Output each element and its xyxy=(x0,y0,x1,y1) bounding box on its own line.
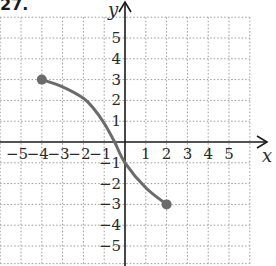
y-tick-label: −2 xyxy=(99,175,121,193)
y-tick-label: −1 xyxy=(99,154,121,172)
x-tick-label: −3 xyxy=(48,145,70,163)
y-tick-label: 3 xyxy=(111,71,121,89)
function-graph: 27. x y −5−4−3−2−11234554321−1−2−3−4−5 xyxy=(0,0,276,266)
x-tick-label: −5 xyxy=(6,145,28,163)
x-tick-label: 1 xyxy=(141,145,151,163)
axes: x y xyxy=(0,0,272,266)
y-tick-label: −5 xyxy=(99,237,121,255)
y-axis-label: y xyxy=(107,0,119,20)
y-tick-label: 4 xyxy=(111,50,121,68)
x-tick-label: 4 xyxy=(203,145,213,163)
problem-number: 27. xyxy=(0,0,28,14)
x-tick-label: 5 xyxy=(224,145,234,163)
x-tick-label: −2 xyxy=(68,145,90,163)
y-tick-label: −4 xyxy=(99,216,121,234)
x-tick-label: 2 xyxy=(162,145,172,163)
y-tick-label: 1 xyxy=(111,112,121,130)
y-tick-label: 5 xyxy=(111,29,121,47)
x-tick-label: 3 xyxy=(183,145,193,163)
x-axis-label: x xyxy=(262,145,272,166)
closed-endpoint-dot xyxy=(37,75,47,85)
y-tick-label: −3 xyxy=(99,195,121,213)
closed-endpoint-dot xyxy=(162,199,172,209)
x-tick-label: −4 xyxy=(27,145,49,163)
y-tick-label: 2 xyxy=(111,91,121,109)
